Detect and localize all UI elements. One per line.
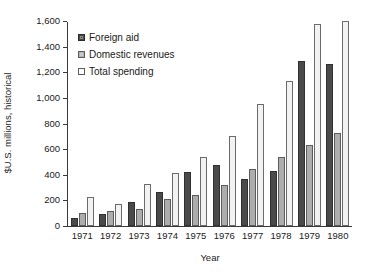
bar xyxy=(213,165,220,227)
x-axis-tick-label: 1972 xyxy=(96,230,124,241)
bar xyxy=(342,21,349,226)
bar-group xyxy=(267,22,295,226)
legend-swatch-icon xyxy=(78,34,85,41)
bar-group xyxy=(210,22,238,226)
y-axis-tick-label: 200 xyxy=(18,195,60,204)
y-axis-tick-mark xyxy=(63,226,67,227)
bar xyxy=(128,202,135,226)
y-axis-tick-label: 1,000 xyxy=(18,93,60,102)
x-axis-tick-label: 1977 xyxy=(238,230,266,241)
bar xyxy=(115,204,122,226)
bar xyxy=(172,173,179,226)
bar xyxy=(99,214,106,226)
y-axis-tick-label: 1,200 xyxy=(18,67,60,76)
bar xyxy=(164,199,171,226)
x-axis-title: Year xyxy=(68,252,352,263)
bar-group xyxy=(238,22,266,226)
bar xyxy=(326,64,333,226)
bar xyxy=(229,136,236,226)
legend-swatch-icon xyxy=(78,68,85,75)
bar xyxy=(200,157,207,226)
x-axis-tick-label: 1971 xyxy=(68,230,96,241)
bar xyxy=(270,171,277,226)
y-axis-tick-mark xyxy=(63,175,67,176)
bar xyxy=(306,145,313,226)
bar xyxy=(241,179,248,226)
y-axis-tick: 0 xyxy=(67,226,68,227)
legend-label: Total spending xyxy=(89,66,154,77)
bar xyxy=(79,213,86,226)
bar xyxy=(144,184,151,226)
legend-item: Total spending xyxy=(78,65,175,77)
bar-group xyxy=(182,22,210,226)
y-axis-tick-label: 400 xyxy=(18,170,60,179)
bar-group xyxy=(295,22,323,226)
bar xyxy=(87,197,94,226)
y-axis-tick-label: 800 xyxy=(18,119,60,128)
bar xyxy=(184,172,191,226)
bar xyxy=(278,157,285,226)
legend-label: Domestic revenues xyxy=(89,49,175,60)
y-axis-tick-mark xyxy=(63,72,67,73)
y-axis-tick-label: 600 xyxy=(18,144,60,153)
y-axis-tick-label: 0 xyxy=(18,221,60,230)
bar xyxy=(298,61,305,226)
x-axis-tick-label: 1976 xyxy=(210,230,238,241)
bar xyxy=(257,104,264,226)
y-axis-tick-mark xyxy=(63,124,67,125)
x-axis-tick-label: 1974 xyxy=(153,230,181,241)
x-axis-tick-label: 1973 xyxy=(125,230,153,241)
bar xyxy=(286,81,293,226)
legend-label: Foreign aid xyxy=(89,32,139,43)
x-axis-line xyxy=(67,226,352,227)
bar xyxy=(136,209,143,226)
y-axis-tick-mark xyxy=(63,98,67,99)
bar xyxy=(334,133,341,226)
x-axis-tick-label: 1980 xyxy=(324,230,352,241)
x-axis-tick-label: 1979 xyxy=(295,230,323,241)
x-axis-tick-labels: 1971197219731974197519761977197819791980 xyxy=(68,230,352,241)
bar-chart: $U.S. millions, historical 0200400600800… xyxy=(0,0,371,277)
x-axis-tick-label: 1975 xyxy=(182,230,210,241)
x-axis-tick-label: 1978 xyxy=(267,230,295,241)
y-axis-tick-mark xyxy=(63,149,67,150)
bar xyxy=(192,195,199,226)
bar-group xyxy=(324,22,352,226)
bar xyxy=(221,185,228,226)
legend-item: Foreign aid xyxy=(78,31,175,43)
y-axis-tick-label: 1,600 xyxy=(18,16,60,25)
y-axis-tick-mark xyxy=(63,200,67,201)
bar xyxy=(71,218,78,226)
legend: Foreign aidDomestic revenuesTotal spendi… xyxy=(78,31,175,77)
y-axis-tick-mark xyxy=(63,21,67,22)
legend-swatch-icon xyxy=(78,51,85,58)
y-axis-tick-mark xyxy=(63,47,67,48)
bar xyxy=(107,211,114,226)
legend-item: Domestic revenues xyxy=(78,48,175,60)
y-axis-title-wrap: $U.S. millions, historical xyxy=(0,18,16,228)
y-axis-tick-label: 1,400 xyxy=(18,42,60,51)
y-axis-title: $U.S. millions, historical xyxy=(1,18,15,228)
bar xyxy=(156,192,163,226)
bar xyxy=(249,169,256,226)
bar xyxy=(314,24,321,226)
